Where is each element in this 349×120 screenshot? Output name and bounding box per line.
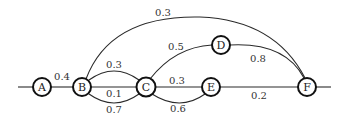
node-a: A bbox=[33, 78, 51, 96]
svg-text:B: B bbox=[78, 81, 86, 94]
weight-b-c-lower: 0.7 bbox=[106, 104, 122, 115]
svg-text:D: D bbox=[217, 39, 226, 52]
weight-d-f: 0.8 bbox=[250, 53, 266, 64]
weight-b-c-straight: 0.1 bbox=[106, 88, 122, 99]
weight-c-e-lower: 0.6 bbox=[170, 103, 186, 114]
node-b: B bbox=[73, 78, 91, 96]
weight-c-d: 0.5 bbox=[168, 41, 184, 52]
weight-c-e-straight: 0.3 bbox=[169, 75, 185, 86]
svg-text:F: F bbox=[303, 81, 311, 94]
weight-b-f: 0.3 bbox=[155, 7, 171, 18]
node-d: D bbox=[212, 36, 230, 54]
graph-svg: 0.4 0.3 0.1 0.7 0.3 0.5 0.3 0.6 0.8 0.2 … bbox=[0, 0, 349, 120]
edge-d-f bbox=[230, 45, 304, 78]
svg-text:E: E bbox=[207, 81, 215, 94]
node-c: C bbox=[137, 78, 156, 97]
weight-b-c-upper: 0.3 bbox=[106, 59, 122, 70]
weight-a-b: 0.4 bbox=[54, 71, 70, 82]
node-f: F bbox=[298, 78, 316, 96]
node-e: E bbox=[202, 78, 220, 96]
svg-text:A: A bbox=[37, 81, 47, 94]
edge-b-c-upper bbox=[89, 71, 139, 80]
graph-diagram: 0.4 0.3 0.1 0.7 0.3 0.5 0.3 0.6 0.8 0.2 … bbox=[0, 0, 349, 120]
weight-e-f: 0.2 bbox=[251, 90, 267, 101]
svg-text:C: C bbox=[142, 81, 150, 94]
